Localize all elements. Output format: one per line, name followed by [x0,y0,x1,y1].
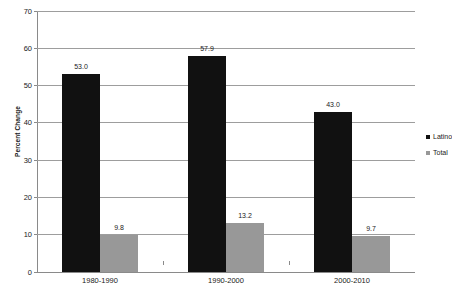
x-axis-group-separator [163,261,164,265]
bar-value-label: 57.9 [200,45,214,52]
legend-label-latino: Latino [433,133,452,140]
y-axis-tick-label: 50 [24,81,32,90]
legend-swatch-icon-latino [426,135,430,139]
y-axis-tick-label: 20 [24,192,32,201]
y-axis-tick [34,234,37,235]
bar-value-label: 43.0 [326,101,340,108]
bar-latino-2000-2010[interactable] [314,112,352,272]
legend-item-total[interactable]: Total [426,149,452,156]
legend-item-latino[interactable]: Latino [426,133,452,140]
y-axis-tick-label: 40 [24,118,32,127]
x-axis-category-label: 1990-2000 [208,276,244,285]
x-axis-category-label: 2000-2010 [334,276,370,285]
y-axis-title: Percent Change [14,82,21,182]
bar-value-label: 9.7 [366,225,376,232]
y-axis-tick-label: 30 [24,155,32,164]
gridline: 70 [37,11,415,12]
x-axis-category-label: 1980-1990 [82,276,118,285]
bar-value-label: 9.8 [114,224,124,231]
legend-label-total: Total [433,149,448,156]
bar-value-label: 53.0 [74,63,88,70]
y-axis-tick [34,122,37,123]
y-axis-tick [34,11,37,12]
plot-area: 01020304050607053.09.857.913.243.09.7 [37,11,415,272]
y-axis-tick-label: 60 [24,43,32,52]
y-axis-tick-label: 70 [24,6,32,15]
y-axis-tick [34,272,37,273]
bar-total-1990-2000[interactable] [226,223,264,272]
chart-legend: Latino Total [426,133,452,165]
bar-total-1980-1990[interactable] [100,235,138,272]
gridline: 60 [37,48,415,49]
y-axis-tick [34,160,37,161]
y-axis-tick-label: 10 [24,230,32,239]
bar-latino-1980-1990[interactable] [62,74,100,272]
bar-value-label: 13.2 [238,212,252,219]
bar-latino-1990-2000[interactable] [188,56,226,272]
y-axis-tick [34,197,37,198]
y-axis-tick-label: 0 [28,267,32,276]
x-axis-group-separator [289,261,290,265]
bar-total-2000-2010[interactable] [352,236,390,272]
y-axis-tick [34,85,37,86]
y-axis-tick [34,48,37,49]
legend-swatch-icon-total [426,151,430,155]
